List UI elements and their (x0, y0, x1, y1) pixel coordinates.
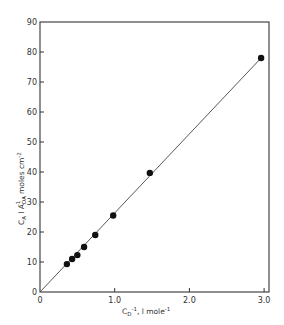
plot-frame (40, 22, 269, 292)
y-tick-label: 60 (27, 108, 37, 117)
y-tick-label: 80 (27, 48, 37, 57)
x-axis-label: CD-1, l mole-1 (122, 306, 170, 317)
data-point (81, 244, 87, 250)
chart: 01.02.03.0 0102030405060708090 CD-1, l m… (0, 0, 284, 325)
data-point (147, 170, 153, 176)
y-tick-label: 0 (32, 288, 37, 297)
x-tick-label: 2.0 (183, 296, 196, 305)
y-tick-label: 70 (27, 78, 37, 87)
y-tick-label: 50 (27, 138, 37, 147)
data-point (258, 55, 264, 61)
y-tick-label: 90 (27, 18, 37, 27)
y-axis-ticks: 0102030405060708090 (27, 18, 44, 297)
data-point (69, 256, 75, 262)
y-tick-label: 30 (27, 198, 37, 207)
x-tick-label: 3.0 (258, 296, 271, 305)
y-tick-label: 10 (27, 258, 37, 267)
y-tick-label: 40 (27, 168, 37, 177)
x-axis-ticks: 01.02.03.0 (37, 288, 270, 305)
y-axis-label: CA l ADA-1, moles cm-2 (15, 152, 27, 225)
data-point (110, 212, 116, 218)
x-tick-label: 1.0 (108, 296, 121, 305)
y-tick-label: 20 (27, 228, 37, 237)
x-tick-label: 0 (37, 296, 42, 305)
data-point (74, 252, 80, 258)
data-point (92, 232, 98, 238)
data-point (64, 261, 70, 267)
